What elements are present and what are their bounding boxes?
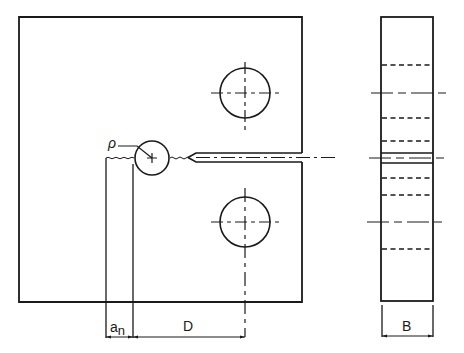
specimen-outline bbox=[19, 17, 302, 302]
notch-slot-lower-edge bbox=[188, 158, 302, 163]
notch-extension-line bbox=[106, 157, 134, 159]
rho-label: ρ bbox=[107, 135, 116, 151]
crack-line bbox=[170, 157, 188, 159]
front-view: ρ an D bbox=[19, 17, 336, 339]
b-label: B bbox=[402, 318, 411, 334]
side-view-outline bbox=[381, 17, 433, 301]
d-label: D bbox=[183, 318, 193, 334]
notch-slot-upper-edge bbox=[188, 153, 302, 158]
side-view: B bbox=[367, 17, 449, 338]
specimen-drawing: ρ an D bbox=[0, 0, 464, 353]
an-label: an bbox=[110, 319, 125, 338]
